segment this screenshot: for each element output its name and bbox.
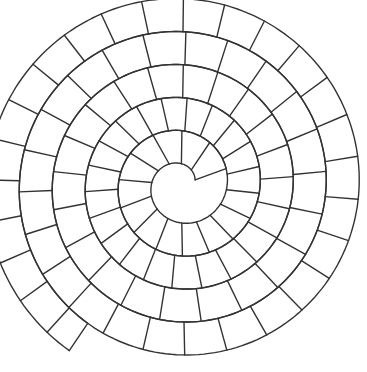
spiral-board [0,0,367,372]
spiral-outer-edge [0,0,359,355]
cell-dividers [0,0,358,355]
